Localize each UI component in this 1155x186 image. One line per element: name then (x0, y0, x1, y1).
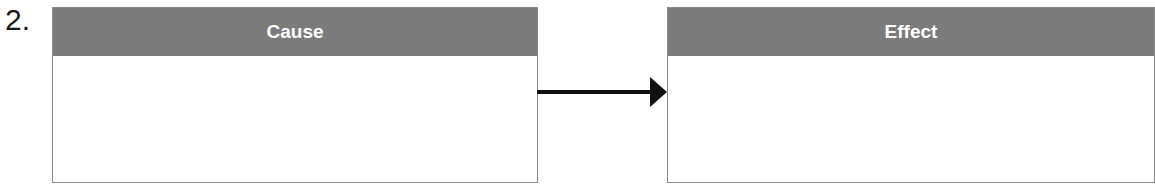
cause-box: Cause (52, 7, 538, 183)
cause-input-area[interactable] (53, 56, 537, 182)
effect-header: Effect (668, 8, 1154, 56)
cause-header: Cause (53, 8, 537, 56)
effect-box: Effect (667, 7, 1155, 183)
item-number: 2. (5, 3, 30, 37)
right-arrow-icon (537, 76, 668, 108)
effect-input-area[interactable] (668, 56, 1154, 182)
